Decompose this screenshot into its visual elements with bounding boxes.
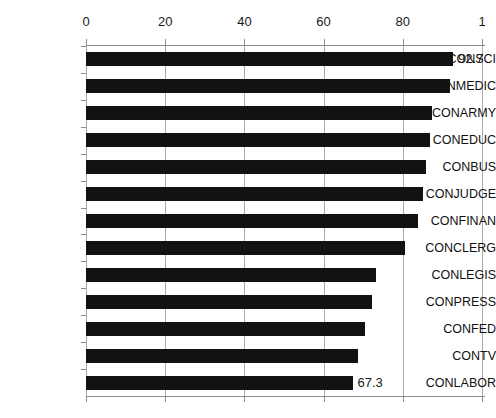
bar [86, 52, 453, 66]
x-axis-tick-label: 1 [478, 15, 485, 29]
bar [86, 241, 405, 255]
bar [86, 268, 376, 282]
x-axis-tick-label: 60 [316, 15, 330, 29]
x-axis-bottom-spine [86, 396, 485, 397]
bar [86, 376, 353, 390]
x-axis-tick-label: 80 [396, 15, 410, 29]
x-axis-tick-label: 0 [82, 15, 89, 29]
x-axis-tick-mark [165, 397, 166, 402]
bar [86, 322, 365, 336]
x-axis-tick-mark [244, 397, 245, 402]
bar-value-label: 67.3 [358, 376, 383, 390]
bar-value-label: 92.7 [458, 52, 483, 66]
bar [86, 79, 450, 93]
x-axis-tick-mark [86, 397, 87, 402]
x-axis-tick-mark [324, 397, 325, 402]
bar [86, 133, 430, 147]
bar [86, 349, 358, 363]
bar [86, 106, 432, 120]
x-axis-tick-mark [403, 397, 404, 402]
bar-chart: 0204060801 CONSCICONMEDICCONARMYCONEDUCC… [0, 0, 496, 418]
bar [86, 214, 418, 228]
bar [86, 295, 372, 309]
bar [86, 160, 426, 174]
x-axis-tick-label: 40 [237, 15, 251, 29]
bar [86, 187, 423, 201]
x-axis-tick-mark [482, 397, 483, 402]
bar-series [86, 46, 482, 396]
x-axis-tick-label: 20 [158, 15, 172, 29]
